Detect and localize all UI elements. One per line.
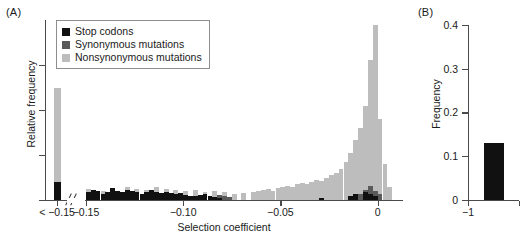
panel-a-x-tick-label: −0.10 xyxy=(170,206,197,218)
bar-stop-codons xyxy=(353,194,358,199)
legend-item: Nonsynonymous mutations xyxy=(62,51,202,64)
panel-a-x-tick-label: < −0.15 xyxy=(39,206,75,218)
panel-a-y-tick xyxy=(39,200,45,201)
bar-synonymous-mutations xyxy=(227,197,232,200)
legend-swatch-stop-codons xyxy=(62,28,70,36)
legend-swatch-synonymous-mutations xyxy=(62,41,70,49)
panel-b-plot-area xyxy=(468,25,519,200)
panel-b-x-tick-label: −1 xyxy=(462,206,474,218)
panel-a-x-axis-label: Selection coefficient xyxy=(45,221,403,233)
panel-b-y-tick-label: 0 xyxy=(424,194,458,206)
axis-break-gap xyxy=(67,198,85,203)
bar-nonsynonymous-mutations xyxy=(232,194,237,199)
panel-b-label: (B) xyxy=(418,6,433,18)
legend-swatch-nonsynonymous-mutations xyxy=(62,54,70,62)
panel-b-y-tick-label: 0.2 xyxy=(424,106,458,118)
legend-label-nonsynonymous-mutations: Nonsynonymous mutations xyxy=(75,51,202,64)
panel-a-x-tick-label: 0 xyxy=(375,206,381,218)
legend: Stop codons Synonymous mutations Nonsyno… xyxy=(56,20,210,69)
bar-stop-codons xyxy=(319,198,324,200)
panel-a-x-tick-label: −0.15 xyxy=(73,206,100,218)
bar-stop-codons xyxy=(373,196,378,200)
bar-nonsynonymous-mutations xyxy=(387,187,392,200)
panel-a: (A) Relative frequency < −0.15−0.15−0.10… xyxy=(0,0,410,239)
bar-synonymous-mutations xyxy=(377,194,382,199)
legend-item: Stop codons xyxy=(62,25,202,38)
panel-a-y-axis-label: Relative frequency xyxy=(25,29,37,179)
panel-b: (B) Frequency 00.10.20.30.4 −1 xyxy=(410,0,509,239)
bar-stop-codons xyxy=(217,198,222,200)
legend-label-stop-codons: Stop codons xyxy=(75,25,133,38)
panel-a-x-axis-line xyxy=(45,200,403,201)
legend-label-synonymous-mutations: Synonymous mutations xyxy=(75,38,184,51)
panel-b-y-tick-label: 0.1 xyxy=(424,150,458,162)
panel-b-x-axis-line xyxy=(468,200,519,201)
panel-b-y-tick-label: 0.4 xyxy=(424,19,458,31)
panel-a-x-tick-label: −0.05 xyxy=(267,206,294,218)
bar-stop-codons xyxy=(484,143,504,200)
bar-nonsynonymous-mutations xyxy=(241,193,246,199)
bar-stop-codons xyxy=(54,182,61,200)
panel-a-label: (A) xyxy=(6,6,21,18)
legend-item: Synonymous mutations xyxy=(62,38,202,51)
panel-b-y-tick-label: 0.3 xyxy=(424,63,458,75)
